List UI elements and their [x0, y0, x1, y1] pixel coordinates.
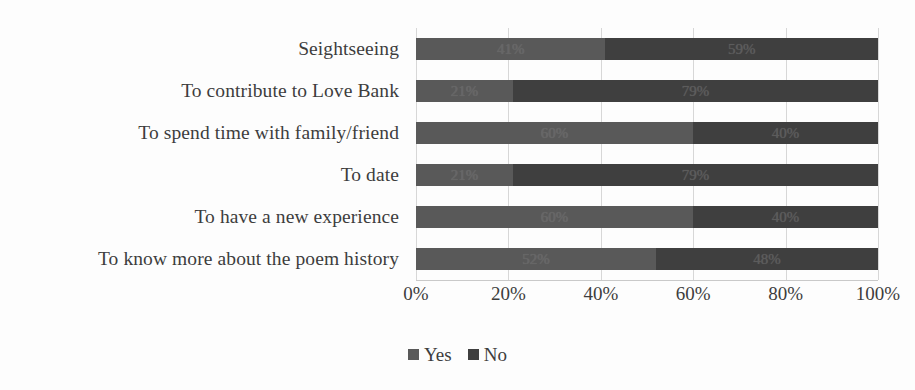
bar-segment-yes: 52% — [416, 248, 656, 270]
legend-swatch-icon — [408, 349, 419, 360]
x-axis-line — [416, 280, 878, 281]
stacked-bar: 21% 79% — [416, 164, 878, 186]
stacked-bar: 21% 79% — [416, 80, 878, 102]
category-label: To date — [8, 154, 408, 196]
x-tick-label: 40% — [583, 284, 618, 303]
bar-row: 52% 48% — [416, 238, 878, 280]
x-tick-label: 60% — [676, 284, 711, 303]
legend: Yes No — [0, 345, 915, 364]
segment-value-label: 41% — [497, 42, 525, 57]
category-label: To contribute to Love Bank — [8, 70, 408, 112]
legend-label: No — [484, 345, 507, 364]
bar-segment-yes: 21% — [416, 164, 513, 186]
bar-row: 41% 59% — [416, 28, 878, 70]
bar-segment-yes: 41% — [416, 38, 605, 60]
stacked-bar: 41% 59% — [416, 38, 878, 60]
bar-row: 21% 79% — [416, 154, 878, 196]
legend-item-yes[interactable]: Yes — [408, 345, 452, 364]
stacked-bar-chart: Seightseeing To contribute to Love Bank … — [0, 0, 915, 390]
segment-value-label: 21% — [451, 84, 479, 99]
bar-segment-yes: 21% — [416, 80, 513, 102]
bar-segment-no: 59% — [605, 38, 878, 60]
category-label: To spend time with family/friend — [8, 112, 408, 154]
category-label: Seightseeing — [8, 28, 408, 70]
segment-value-label: 40% — [772, 210, 800, 225]
bar-rows: 41% 59% 21% 79% 60% 40% 21% 79% — [416, 28, 878, 280]
bar-segment-no: 79% — [513, 164, 878, 186]
segment-value-label: 79% — [682, 168, 710, 183]
bar-segment-no: 48% — [656, 248, 878, 270]
stacked-bar: 60% 40% — [416, 122, 878, 144]
stacked-bar: 60% 40% — [416, 206, 878, 228]
bar-row: 60% 40% — [416, 112, 878, 154]
bar-segment-yes: 60% — [416, 122, 693, 144]
category-label: To have a new experience — [8, 196, 408, 238]
legend-label: Yes — [424, 345, 452, 364]
x-tick-label: 20% — [491, 284, 526, 303]
segment-value-label: 79% — [682, 84, 710, 99]
segment-value-label: 40% — [772, 126, 800, 141]
bar-segment-no: 40% — [693, 206, 878, 228]
segment-value-label: 59% — [728, 42, 756, 57]
segment-value-label: 60% — [541, 210, 569, 225]
segment-value-label: 48% — [753, 252, 781, 267]
x-tick-label: 100% — [856, 284, 900, 303]
segment-value-label: 60% — [541, 126, 569, 141]
x-tick-label: 80% — [768, 284, 803, 303]
bar-segment-no: 40% — [693, 122, 878, 144]
category-axis: Seightseeing To contribute to Love Bank … — [8, 28, 408, 280]
x-tick-label: 0% — [403, 284, 428, 303]
bar-segment-no: 79% — [513, 80, 878, 102]
bar-row: 21% 79% — [416, 70, 878, 112]
bar-row: 60% 40% — [416, 196, 878, 238]
bar-segment-yes: 60% — [416, 206, 693, 228]
category-label: To know more about the poem history — [8, 238, 408, 280]
segment-value-label: 52% — [522, 252, 550, 267]
stacked-bar: 52% 48% — [416, 248, 878, 270]
legend-item-no[interactable]: No — [468, 345, 507, 364]
legend-swatch-icon — [468, 349, 479, 360]
segment-value-label: 21% — [451, 168, 479, 183]
plot-area: 41% 59% 21% 79% 60% 40% 21% 79% — [416, 28, 878, 280]
x-axis-ticks: 0%20%40%60%80%100% — [416, 284, 878, 310]
gridline — [878, 28, 879, 280]
